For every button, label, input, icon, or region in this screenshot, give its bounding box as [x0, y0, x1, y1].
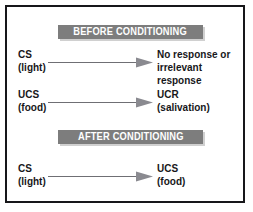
row-right-term-sub: irrelevant response [157, 61, 249, 87]
section-banner-before-conditioning: BEFORE CONDITIONING [58, 25, 203, 39]
row-right-term: UCS (food) [157, 162, 249, 188]
diagram-row: UCS (food) UCR (salivation) [0, 88, 253, 116]
section-banner-after-conditioning: AFTER CONDITIONING [58, 130, 203, 144]
conditioning-diagram: BEFORE CONDITIONING CS (light) No respon… [0, 0, 253, 212]
section-banner-label: BEFORE CONDITIONING [74, 27, 188, 37]
row-right-term-sub: (salivation) [157, 101, 249, 114]
row-left-term-main: CS [18, 49, 32, 60]
row-right-term-sub: (food) [157, 175, 249, 188]
right-arrow-icon [48, 97, 153, 108]
diagram-row: CS (light) No response or irrelevant res… [0, 48, 253, 76]
diagram-row: CS (light) UCS (food) [0, 162, 253, 190]
row-right-term: UCR (salivation) [157, 88, 249, 114]
right-arrow-icon [48, 57, 153, 68]
section-banner-label: AFTER CONDITIONING [78, 132, 184, 142]
row-right-term-main: UCS [157, 163, 178, 174]
row-left-term-main: UCS [18, 89, 39, 100]
row-left-term-main: CS [18, 163, 32, 174]
row-right-term-main: No response or [157, 49, 230, 60]
row-right-term-main: UCR [157, 89, 179, 100]
right-arrow-icon [48, 171, 153, 182]
row-right-term: No response or irrelevant response [157, 48, 249, 87]
